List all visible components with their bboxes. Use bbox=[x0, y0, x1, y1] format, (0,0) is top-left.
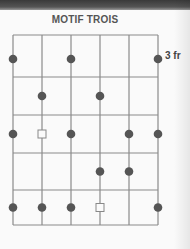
root-square bbox=[38, 130, 46, 138]
note-dot bbox=[67, 130, 76, 139]
root-square bbox=[96, 204, 104, 212]
fret-position-label: 3 fr bbox=[165, 50, 181, 61]
note-dot bbox=[9, 203, 18, 212]
note-dot bbox=[9, 55, 18, 64]
fretboard-diagram bbox=[0, 0, 190, 249]
note-dot bbox=[67, 203, 76, 212]
note-dot bbox=[9, 130, 18, 139]
note-dot bbox=[154, 130, 163, 139]
note-dot bbox=[38, 203, 47, 212]
note-dot bbox=[38, 92, 47, 101]
note-dot bbox=[125, 130, 134, 139]
note-dot bbox=[96, 167, 105, 176]
note-dot bbox=[125, 167, 134, 176]
note-dot bbox=[154, 55, 163, 64]
note-dot bbox=[154, 203, 163, 212]
note-dot bbox=[67, 55, 76, 64]
note-dot bbox=[96, 92, 105, 101]
